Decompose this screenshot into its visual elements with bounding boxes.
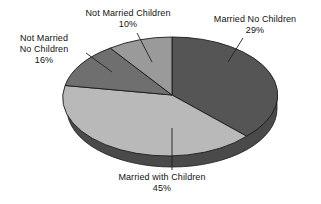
slice-label-percent: 45% xyxy=(92,183,232,194)
slice-label-text-line2: No Children xyxy=(2,44,86,55)
slice-label-not-married-children: Not Married Children 10% xyxy=(68,8,188,30)
slice-label-married-with-children: Married with Children 45% xyxy=(92,172,232,194)
slice-label-text: Married No Children xyxy=(214,14,296,24)
pie-chart: Married No Children 29% Not Married Chil… xyxy=(0,0,321,204)
slice-label-percent: 16% xyxy=(2,55,86,66)
slice-label-married-no-children: Married No Children 29% xyxy=(196,14,314,36)
slice-label-text: Married with Children xyxy=(118,172,205,182)
slice-label-text-line1: Not Married xyxy=(20,33,68,43)
slice-label-not-married-no-children: Not Married No Children 16% xyxy=(2,33,86,66)
slice-label-text: Not Married Children xyxy=(85,8,170,18)
slice-label-percent: 29% xyxy=(196,25,314,36)
slice-label-percent: 10% xyxy=(68,19,188,30)
